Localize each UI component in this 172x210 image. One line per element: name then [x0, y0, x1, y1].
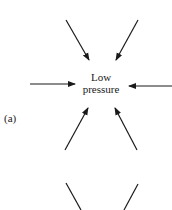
arrow-upper-right — [116, 20, 138, 60]
line-bottom-left — [66, 183, 81, 210]
low-pressure-convergence-diagram: Low pressure (a) — [0, 0, 172, 210]
arrow-upper-left — [66, 20, 89, 60]
center-label-low: Low — [91, 71, 111, 83]
arrow-lower-right — [115, 108, 137, 150]
arrow-lower-left — [65, 108, 88, 150]
line-bottom-right — [124, 184, 138, 210]
panel-label: (a) — [4, 112, 17, 125]
center-label-pressure: pressure — [83, 83, 120, 95]
